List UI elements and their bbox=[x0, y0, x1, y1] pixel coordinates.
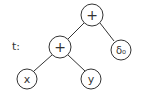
node-root-label: + bbox=[86, 7, 98, 23]
edge-inner-x bbox=[34, 55, 52, 71]
edge-inner-y bbox=[68, 55, 85, 71]
edge-root-right bbox=[100, 23, 114, 41]
node-leaf-y-label: y bbox=[88, 73, 95, 86]
node-leaf-right-label: δ₀ bbox=[116, 45, 126, 56]
edge-root-inner bbox=[68, 23, 84, 39]
node-inner-label: + bbox=[54, 39, 66, 55]
node-leaf-x-label: x bbox=[24, 73, 31, 86]
expression-tree: + + δ₀ x y bbox=[0, 0, 144, 94]
